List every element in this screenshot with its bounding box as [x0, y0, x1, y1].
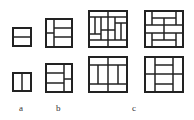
label-b: b	[56, 104, 61, 113]
figure-c-top-2	[145, 11, 183, 47]
figure-c-bottom-2	[145, 57, 183, 92]
figure-b-top	[46, 19, 72, 47]
outer-square	[46, 64, 72, 92]
figure-b-bottom	[46, 64, 72, 92]
figure-c-top-1	[89, 11, 127, 47]
label-c: c	[132, 104, 136, 113]
figure-a-bottom	[13, 73, 31, 91]
figure-c-bottom-1	[89, 57, 127, 92]
label-a: a	[19, 104, 23, 113]
figure-a-top	[13, 28, 31, 46]
figure-diagram	[0, 0, 194, 120]
